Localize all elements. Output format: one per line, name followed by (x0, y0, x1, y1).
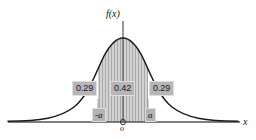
x-axis-label: x (243, 116, 247, 127)
origin-label: o (120, 124, 124, 133)
normal-distribution-figure: f(x) x o 0.29 0.42 0.29 -a a (0, 0, 256, 140)
area-label-right: 0.29 (149, 81, 174, 96)
tick-label-a: a (145, 108, 156, 122)
area-label-center: 0.42 (110, 81, 135, 96)
y-axis-label: f(x) (106, 8, 120, 19)
area-label-left: 0.29 (72, 81, 97, 96)
tick-label-minus-a: -a (92, 108, 106, 122)
plot-canvas (0, 0, 256, 140)
